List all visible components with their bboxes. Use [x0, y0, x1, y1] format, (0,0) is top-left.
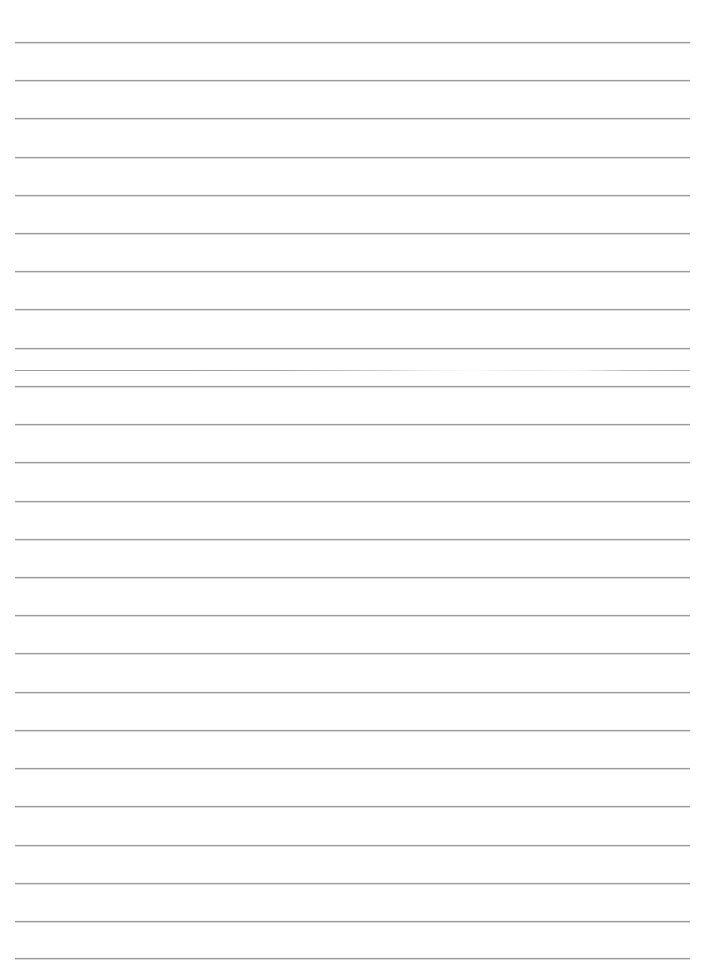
- rule-line: [15, 233, 690, 234]
- rule-line: [15, 309, 690, 310]
- rule-line: [15, 615, 690, 616]
- rule-line: [15, 653, 690, 654]
- rule-line: [15, 958, 690, 959]
- rule-line: [15, 271, 690, 272]
- rule-line: [15, 501, 690, 502]
- rule-line: [15, 80, 690, 81]
- rule-line: [15, 157, 690, 158]
- ruled-paper-sheet: [0, 0, 702, 965]
- rule-line: [15, 730, 690, 731]
- rule-line: [15, 883, 690, 884]
- rule-line: [15, 845, 690, 846]
- rule-line: [15, 42, 690, 43]
- rule-line: [15, 386, 690, 387]
- rule-line: [15, 424, 690, 425]
- rule-line: [15, 539, 690, 540]
- rule-line: [15, 462, 690, 463]
- rule-line: [15, 370, 690, 371]
- rule-line: [15, 118, 690, 119]
- rule-line: [15, 195, 690, 196]
- rule-line: [15, 348, 690, 349]
- rule-line: [15, 921, 690, 922]
- rule-line: [15, 577, 690, 578]
- rule-line: [15, 806, 690, 807]
- rule-line: [15, 692, 690, 693]
- rule-line: [15, 768, 690, 769]
- page-canvas: [0, 0, 702, 965]
